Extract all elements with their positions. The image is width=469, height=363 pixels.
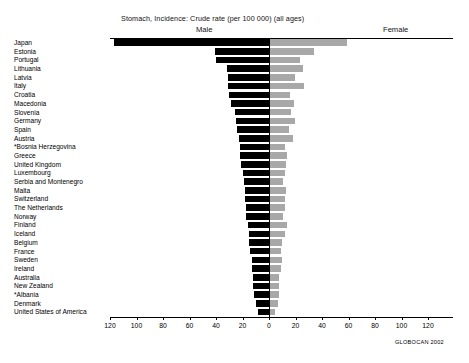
axis-tick-label: 60 [177, 322, 203, 329]
bar-female [270, 161, 286, 168]
bar-male [114, 39, 269, 46]
bar-male [245, 196, 269, 203]
bar-female [270, 65, 303, 72]
bar-female [270, 213, 283, 220]
bar-male [249, 231, 269, 238]
bar-male [241, 161, 269, 168]
bar-male [245, 187, 269, 194]
bar-male [253, 283, 269, 290]
bar-female [270, 39, 347, 46]
bar-female [270, 178, 283, 185]
axis-tick [375, 317, 376, 320]
bar-female [270, 291, 279, 298]
bars-plot-area [110, 38, 453, 316]
axis-tick-label: 20 [283, 322, 309, 329]
axis-tick-label: 80 [150, 322, 176, 329]
axis-tick [110, 317, 111, 320]
axis-tick [296, 317, 297, 320]
stomach-incidence-chart: Stomach, Incidence: Crude rate (per 100 … [0, 0, 469, 363]
bar-female [270, 109, 291, 116]
bar-male [240, 152, 269, 159]
source-note: GLOBOCAN 2002 [395, 339, 444, 345]
bar-female [270, 74, 295, 81]
axis-tick-label: 60 [336, 322, 362, 329]
bar-female [270, 83, 304, 90]
bar-male [239, 135, 269, 142]
axis-tick-label: 120 [97, 322, 123, 329]
bar-male [236, 118, 269, 125]
bar-female [270, 100, 294, 107]
bar-male [250, 248, 269, 255]
axis-tick-label: 120 [415, 322, 441, 329]
bar-male [216, 57, 269, 64]
bar-female [270, 265, 281, 272]
bar-female [270, 48, 314, 55]
axis-tick [243, 317, 244, 320]
bar-female [270, 92, 290, 99]
bar-male [258, 309, 269, 316]
category-label: United States of America [14, 307, 110, 316]
bar-male [240, 144, 269, 151]
bar-female [270, 239, 282, 246]
bar-female [270, 170, 285, 177]
axis-tick [190, 317, 191, 320]
axis-tick-label: 100 [124, 322, 150, 329]
axis-tick [163, 317, 164, 320]
legend-label-female: Female [383, 25, 408, 34]
axis-tick [349, 317, 350, 320]
bar-female [270, 257, 282, 264]
axis-tick-label: 20 [230, 322, 256, 329]
bar-male [249, 239, 269, 246]
bar-female [270, 187, 286, 194]
bar-male [227, 65, 269, 72]
page-title: Stomach, Incidence: Crude rate (per 100 … [121, 14, 304, 23]
axis-tick-label: 80 [362, 322, 388, 329]
bar-male [237, 126, 269, 133]
bar-male [248, 222, 269, 229]
axis-tick-label: 100 [389, 322, 415, 329]
axis-tick [216, 317, 217, 320]
bar-male [229, 92, 269, 99]
bar-male [252, 265, 269, 272]
bar-female [270, 231, 285, 238]
bar-male [244, 178, 269, 185]
category-label-row: United States of America [14, 307, 110, 316]
bar-female [270, 300, 278, 307]
bar-female [270, 152, 287, 159]
axis-tick [402, 317, 403, 320]
bar-male [235, 109, 269, 116]
bar-female [270, 126, 289, 133]
bar-female [270, 118, 295, 125]
bar-male [252, 257, 269, 264]
bar-female [270, 144, 285, 151]
bar-male [243, 170, 270, 177]
axis-tick [428, 317, 429, 320]
axis-tick-label: 40 [309, 322, 335, 329]
bar-male [254, 291, 269, 298]
bar-female [270, 274, 279, 281]
bar-female [270, 248, 281, 255]
bar-male [256, 300, 269, 307]
bar-male [215, 48, 269, 55]
bar-female [270, 196, 285, 203]
axis-tick [322, 317, 323, 320]
bar-female [270, 309, 275, 316]
axis-tick [137, 317, 138, 320]
bar-male [253, 274, 269, 281]
bar-female [270, 57, 300, 64]
bar-male [228, 74, 269, 81]
axis-tick-label: 40 [203, 322, 229, 329]
axis-tick-label: 0 [256, 322, 282, 329]
bar-female [270, 222, 287, 229]
legend-label-male: Male [196, 25, 212, 34]
category-label-column: JapanEstoniaPortugalLithuaniaLatviaItaly… [14, 38, 110, 316]
table-row [110, 307, 453, 316]
bar-male [231, 100, 269, 107]
bar-male [246, 204, 269, 211]
bar-male [246, 213, 269, 220]
bar-female [270, 283, 279, 290]
bar-female [270, 204, 285, 211]
bar-female [270, 135, 293, 142]
axis-tick [269, 317, 270, 320]
bar-male [228, 83, 269, 90]
